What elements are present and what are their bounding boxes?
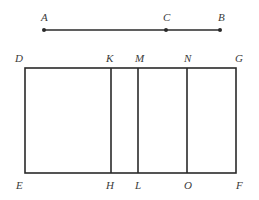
label-b: B xyxy=(218,11,225,23)
label-d: D xyxy=(14,52,23,64)
point-a xyxy=(42,28,46,32)
label-f: F xyxy=(235,179,243,191)
point-b xyxy=(218,28,222,32)
label-c: C xyxy=(163,11,171,23)
label-n: N xyxy=(183,52,192,64)
point-c xyxy=(164,28,168,32)
label-h: H xyxy=(105,179,115,191)
rectangle-outline xyxy=(25,68,236,173)
label-g: G xyxy=(235,52,243,64)
segment-ab: ACB xyxy=(40,11,225,32)
label-k: K xyxy=(105,52,114,64)
geometry-diagram: ACB DKMNGEHLOF xyxy=(0,0,259,200)
label-o: O xyxy=(184,179,192,191)
label-e: E xyxy=(15,179,23,191)
label-l: L xyxy=(134,179,141,191)
label-a: A xyxy=(40,11,48,23)
label-m: M xyxy=(134,52,145,64)
rectangle-labels: DKMNGEHLOF xyxy=(14,52,243,191)
rectangle-defg xyxy=(25,68,236,173)
